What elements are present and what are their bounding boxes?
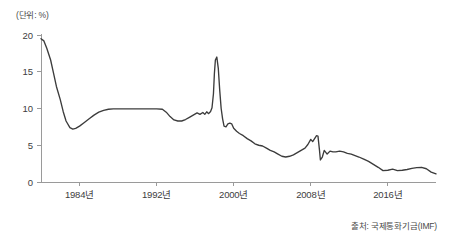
x-axis-ticks: 1984년1992년2000년2008년2016년	[65, 182, 402, 200]
x-tick-label: 1992년	[142, 189, 171, 200]
y-tick-label: 0	[28, 177, 33, 188]
line-chart-plot: 05101520 1984년1992년2000년2008년2016년	[0, 0, 449, 240]
chart-figure: (단위: %) 05101520 1984년1992년2000년2008년201…	[0, 0, 449, 240]
x-tick-label: 2000년	[219, 189, 248, 200]
source-label: 출처: 국제통화기금(IMF)	[351, 219, 437, 231]
y-tick-label: 20	[22, 30, 33, 41]
x-tick-label: 2016년	[373, 189, 402, 200]
y-axis-ticks: 05101520	[22, 30, 41, 188]
x-tick-label: 1984년	[65, 189, 94, 200]
x-tick-label: 2008년	[296, 189, 325, 200]
y-tick-label: 10	[22, 103, 33, 114]
y-tick-label: 5	[28, 140, 33, 151]
data-series-line	[41, 39, 436, 174]
y-tick-label: 15	[22, 66, 33, 77]
